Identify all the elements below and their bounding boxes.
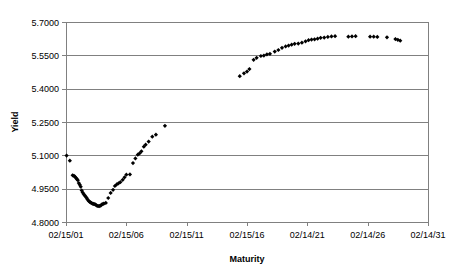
y-axis-title: Yield — [10, 111, 20, 132]
y-tick-label: 5.2500 — [31, 118, 59, 128]
data-point — [154, 133, 158, 137]
x-tick-labels: 02/15/0102/15/0602/15/1102/15/1602/14/21… — [48, 230, 445, 240]
data-point — [111, 188, 115, 192]
data-point — [333, 34, 337, 38]
data-point — [280, 46, 284, 50]
y-tick-label: 5.7000 — [31, 18, 59, 28]
y-tick-label: 5.4000 — [31, 84, 59, 94]
data-point — [354, 34, 358, 38]
y-tick-labels: 4.80004.95005.10005.25005.40005.55005.70… — [31, 18, 66, 228]
x-tick-label: 02/15/01 — [48, 230, 83, 240]
data-point — [163, 124, 167, 128]
y-tick-label: 5.5500 — [31, 51, 59, 61]
x-tick-label: 02/14/31 — [410, 230, 445, 240]
data-point — [329, 34, 333, 38]
y-tick-label: 4.8000 — [31, 218, 59, 228]
data-point — [109, 191, 113, 195]
y-tick-label: 5.1000 — [31, 151, 59, 161]
data-point — [350, 34, 354, 38]
yield-curve-chart: 4.80004.95005.10005.25005.40005.55005.70… — [0, 0, 463, 273]
data-point — [131, 161, 135, 165]
data-point — [322, 35, 326, 39]
data-point — [293, 42, 297, 46]
data-point — [65, 153, 69, 157]
grid-group — [66, 23, 428, 223]
x-tick-label: 02/15/16 — [229, 230, 264, 240]
data-point — [326, 35, 330, 39]
data-point — [385, 35, 389, 39]
x-tick-label: 02/14/26 — [350, 230, 385, 240]
x-tick-label: 02/15/06 — [109, 230, 144, 240]
data-point — [296, 41, 300, 45]
data-point — [150, 135, 154, 139]
x-tick-label: 02/14/21 — [290, 230, 325, 240]
data-point — [346, 35, 350, 39]
data-point — [284, 44, 288, 48]
data-point — [276, 48, 280, 52]
data-point — [147, 139, 151, 143]
data-point — [273, 49, 277, 53]
data-point — [372, 35, 376, 39]
data-points-group — [65, 34, 403, 208]
data-point — [375, 35, 379, 39]
data-point — [106, 196, 110, 200]
data-point — [133, 156, 137, 160]
x-tick-label: 02/15/11 — [169, 230, 203, 240]
chart-canvas: 4.80004.95005.10005.25005.40005.55005.70… — [0, 0, 463, 273]
data-point — [319, 36, 323, 40]
data-point — [312, 37, 316, 41]
data-point — [300, 41, 304, 45]
data-point — [290, 43, 294, 47]
x-axis-title: Maturity — [229, 254, 264, 264]
data-point — [315, 37, 319, 41]
data-point — [238, 74, 242, 78]
data-point — [68, 159, 72, 163]
data-point — [287, 43, 291, 47]
data-point — [128, 172, 132, 176]
data-point — [368, 35, 372, 39]
y-tick-label: 4.9500 — [31, 184, 59, 194]
